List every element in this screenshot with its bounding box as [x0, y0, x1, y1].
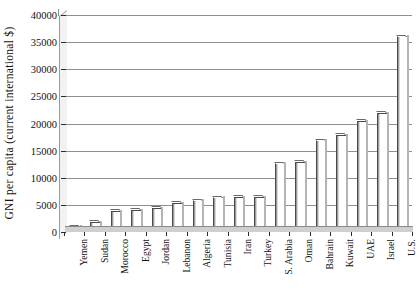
y-tick-label: 20000	[31, 118, 57, 129]
x-tick-mark	[166, 232, 167, 236]
plot-area	[64, 15, 412, 232]
x-axis-tick-marks	[64, 232, 412, 238]
bar	[275, 163, 286, 231]
bar	[131, 210, 142, 231]
x-tick-mark	[105, 232, 106, 236]
x-axis-category-labels: YemenSudanMoroccoEgyptJordanLebanonAlger…	[64, 239, 416, 301]
bar	[234, 197, 245, 231]
y-tick-mark	[61, 15, 66, 16]
x-tick-mark	[330, 232, 331, 236]
bar	[336, 135, 347, 231]
gridline	[65, 42, 412, 43]
x-category-label: Morocco	[119, 239, 130, 274]
x-tick-mark	[412, 232, 413, 236]
x-tick-mark	[351, 232, 352, 236]
bar	[295, 162, 306, 231]
x-category-label: Turkey	[262, 239, 273, 266]
x-tick-mark	[84, 232, 85, 236]
x-category-label: Yemen	[78, 239, 89, 266]
x-category-label: U.S.	[406, 239, 417, 256]
bar	[70, 226, 81, 231]
gridline	[65, 15, 412, 16]
x-tick-mark	[207, 232, 208, 236]
bar	[193, 200, 204, 231]
y-tick-label: 35000	[31, 37, 57, 48]
gridline	[65, 69, 412, 70]
y-tick-label: 0	[52, 227, 57, 238]
x-tick-mark	[289, 232, 290, 236]
y-axis-tick-labels: 0500010000150002000025000300003500040000	[18, 0, 60, 245]
y-tick-mark	[61, 96, 66, 97]
bar	[152, 208, 163, 231]
x-tick-mark	[310, 232, 311, 236]
y-tick-label: 30000	[31, 64, 57, 75]
x-tick-mark	[392, 232, 393, 236]
gni-per-capita-bar-chart: GNI per capita (current international $)…	[0, 0, 420, 301]
x-category-label: S. Arabia	[283, 239, 294, 275]
x-tick-mark	[125, 232, 126, 236]
y-tick-mark	[61, 151, 66, 152]
y-tick-label: 25000	[31, 91, 57, 102]
bar	[90, 222, 101, 231]
bar	[213, 197, 224, 231]
gridline	[65, 96, 412, 97]
y-axis-title: GNI per capita (current international $)	[0, 0, 18, 245]
y-tick-mark	[61, 69, 66, 70]
y-tick-mark	[61, 178, 66, 179]
bar	[111, 211, 122, 231]
x-category-label: Sudan	[99, 239, 110, 263]
x-category-label: Oman	[303, 239, 314, 262]
x-category-label: Algeria	[201, 239, 212, 268]
x-tick-mark	[146, 232, 147, 236]
x-tick-mark	[64, 232, 65, 236]
y-axis-title-text: GNI per capita (current international $)	[3, 26, 15, 219]
y-tick-mark	[61, 42, 66, 43]
y-tick-label: 5000	[36, 199, 57, 210]
x-tick-mark	[187, 232, 188, 236]
bar	[172, 203, 183, 231]
x-category-label: Kuwait	[344, 239, 355, 267]
y-tick-mark	[61, 124, 66, 125]
x-tick-mark	[269, 232, 270, 236]
x-category-label: Israel	[385, 239, 396, 260]
bar	[397, 36, 408, 231]
bar	[357, 121, 368, 231]
bar	[377, 113, 388, 231]
bar	[254, 197, 265, 231]
y-tick-mark	[61, 205, 66, 206]
x-category-label: Tunisia	[222, 239, 233, 267]
x-category-label: Jordan	[160, 239, 171, 265]
bar	[316, 140, 327, 231]
y-tick-label: 15000	[31, 145, 57, 156]
x-category-label: Iran	[242, 239, 253, 254]
x-tick-mark	[371, 232, 372, 236]
x-category-label: Bahrain	[324, 239, 335, 269]
x-category-label: UAE	[365, 239, 376, 259]
x-category-label: Egypt	[140, 239, 151, 262]
x-tick-mark	[228, 232, 229, 236]
y-tick-label: 40000	[31, 10, 57, 21]
x-category-label: Lebanon	[181, 239, 192, 273]
x-tick-mark	[248, 232, 249, 236]
y-tick-label: 10000	[31, 172, 57, 183]
